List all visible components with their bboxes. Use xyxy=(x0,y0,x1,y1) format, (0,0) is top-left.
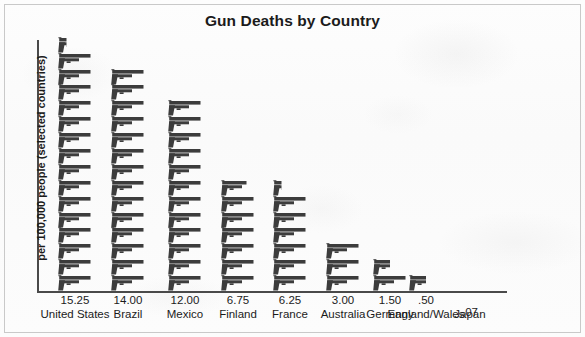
pictograph-column xyxy=(273,180,307,291)
pistol-icon xyxy=(58,180,92,196)
x-axis-line xyxy=(37,291,507,293)
pistol-icon-partial xyxy=(58,37,92,53)
chart-title: Gun Deaths by Country xyxy=(0,12,585,30)
pistol-icon xyxy=(221,259,255,275)
pistol-icon xyxy=(58,259,92,275)
pistol-icon xyxy=(111,84,145,100)
pistol-icon xyxy=(221,196,255,212)
plot-area xyxy=(39,40,507,291)
x-axis-value: .50 xyxy=(366,294,486,306)
pistol-icon xyxy=(111,69,145,85)
pistol-icon xyxy=(58,243,92,259)
pistol-icon-partial xyxy=(273,180,307,196)
pistol-icon xyxy=(168,196,202,212)
pistol-icon xyxy=(58,275,92,291)
pistol-icon xyxy=(58,164,92,180)
pistol-icon xyxy=(168,100,202,116)
chart-page: Gun Deaths by Country per 100,000 people… xyxy=(0,0,585,337)
x-axis-tick: .07Japan xyxy=(410,306,530,320)
pictograph-column xyxy=(326,243,360,291)
pistol-icon xyxy=(58,84,92,100)
pistol-icon xyxy=(58,227,92,243)
pistol-icon xyxy=(221,275,255,291)
pistol-icon xyxy=(111,164,145,180)
pistol-icon xyxy=(373,275,407,291)
pistol-icon xyxy=(221,227,255,243)
pictograph-column xyxy=(58,37,92,291)
pistol-icon xyxy=(273,259,307,275)
pictograph-column xyxy=(373,259,407,291)
pistol-icon xyxy=(58,196,92,212)
pistol-icon xyxy=(58,148,92,164)
pistol-icon xyxy=(111,148,145,164)
pistol-icon xyxy=(273,227,307,243)
pistol-icon xyxy=(221,243,255,259)
pictograph-column xyxy=(409,275,443,291)
pictograph-column xyxy=(111,69,145,291)
pistol-icon xyxy=(111,227,145,243)
pistol-icon xyxy=(58,69,92,85)
pistol-icon xyxy=(58,132,92,148)
pistol-icon xyxy=(111,116,145,132)
pistol-icon xyxy=(273,212,307,228)
pistol-icon xyxy=(58,100,92,116)
pistol-icon xyxy=(168,275,202,291)
pistol-icon xyxy=(168,243,202,259)
pistol-icon xyxy=(168,180,202,196)
x-axis-country: Japan xyxy=(410,308,530,320)
pistol-icon xyxy=(168,227,202,243)
pistol-icon xyxy=(111,132,145,148)
pistol-icon-partial xyxy=(373,259,407,275)
pistol-icon xyxy=(168,116,202,132)
pistol-icon xyxy=(111,100,145,116)
pistol-icon xyxy=(111,180,145,196)
pistol-icon xyxy=(273,275,307,291)
pistol-icon xyxy=(168,212,202,228)
pistol-icon xyxy=(111,275,145,291)
pistol-icon xyxy=(111,212,145,228)
pistol-icon xyxy=(273,243,307,259)
pistol-icon xyxy=(111,243,145,259)
pistol-icon xyxy=(168,259,202,275)
pistol-icon-partial xyxy=(409,275,443,291)
pistol-icon-partial xyxy=(221,180,255,196)
pistol-icon xyxy=(58,53,92,69)
pictograph-column xyxy=(168,100,202,291)
pistol-icon xyxy=(58,116,92,132)
y-axis-label: per 100,000 people (selected countries) xyxy=(35,38,47,278)
pistol-icon xyxy=(221,212,255,228)
pistol-icon xyxy=(58,212,92,228)
pistol-icon xyxy=(111,196,145,212)
x-axis-labels: 15.25United States14.00Brazil12.00Mexico… xyxy=(0,294,585,337)
pistol-icon xyxy=(326,259,360,275)
pistol-icon xyxy=(326,275,360,291)
pistol-icon xyxy=(168,132,202,148)
pistol-icon xyxy=(168,164,202,180)
pistol-icon xyxy=(111,259,145,275)
pictograph-column xyxy=(221,180,255,291)
pistol-icon xyxy=(168,148,202,164)
pistol-icon xyxy=(273,196,307,212)
pistol-icon xyxy=(326,243,360,259)
